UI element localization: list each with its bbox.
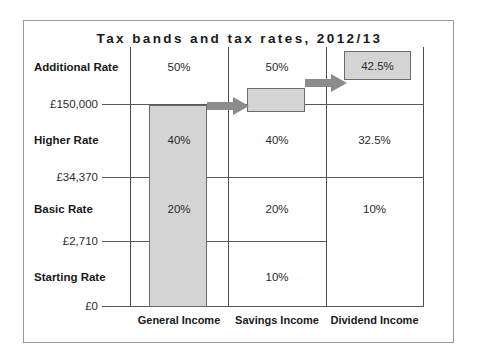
column-label-savings-income: Savings Income [228, 314, 326, 326]
band-label-basic-rate: Basic Rate [34, 203, 93, 215]
value-savings-higher: 40% [228, 134, 326, 146]
value-general-higher: 40% [130, 134, 228, 146]
value-general-additional: 50% [130, 61, 228, 73]
threshold-label-150000: £150,000 [24, 98, 98, 110]
value-dividend-additional: 42.5% [345, 52, 410, 81]
band-label-additional-rate: Additional Rate [34, 61, 118, 73]
tick-34370 [102, 177, 130, 178]
column-label-dividend-income: Dividend Income [326, 314, 423, 326]
band-label-higher-rate: Higher Rate [34, 134, 99, 146]
dividend-income-highlight-box: 42.5% [344, 51, 411, 80]
tick-150000 [102, 104, 130, 105]
threshold-label-2710: £2,710 [24, 235, 98, 247]
arrow-savings-to-dividend [305, 74, 347, 92]
tick-2710 [102, 241, 130, 242]
threshold-label-34370: £34,370 [24, 171, 98, 183]
column-label-general-income: General Income [130, 314, 228, 326]
value-savings-starting: 10% [228, 271, 326, 283]
value-dividend-basic: 10% [326, 203, 423, 215]
threshold-label-0: £0 [24, 300, 98, 312]
chart-title: Tax bands and tax rates, 2012/13 [24, 31, 455, 46]
arrow-general-to-savings [207, 97, 249, 115]
savings-income-highlight-box [247, 88, 305, 112]
band-label-starting-rate: Starting Rate [34, 271, 106, 283]
chart-frame: Tax bands and tax rates, 2012/13 £150,00… [23, 20, 454, 343]
value-savings-basic: 20% [228, 203, 326, 215]
value-savings-additional: 50% [228, 61, 326, 73]
value-dividend-higher: 32.5% [326, 134, 423, 146]
value-general-basic: 20% [130, 203, 228, 215]
